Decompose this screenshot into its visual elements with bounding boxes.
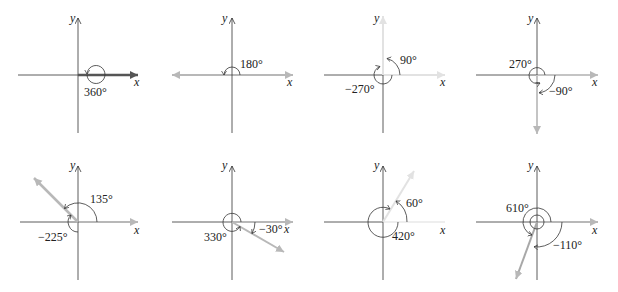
angle-label-135: 135° (90, 192, 113, 206)
angle-label-neg225: −225° (38, 230, 68, 244)
angle-label-90: 90° (400, 53, 417, 67)
y-axis-label: y (69, 11, 76, 25)
panel-90: y x 90° −270° (324, 11, 446, 133)
angle-label: 360° (84, 85, 107, 99)
y-axis-label: y (221, 158, 228, 172)
panel-180: y x 180° (172, 11, 293, 133)
angle-label-neg90: −90° (549, 84, 573, 98)
angle-label-neg30: −30° (259, 222, 283, 236)
x-axis-label: x (286, 75, 293, 89)
x-axis-label: x (439, 223, 446, 237)
angle-label-610: 610° (506, 201, 529, 215)
x-axis-label: x (591, 75, 598, 89)
panel-360: y x 360° (18, 11, 140, 133)
y-axis-label: y (527, 11, 534, 25)
panel-neg90: y x 270° −90° (476, 11, 598, 134)
y-axis-label: y (373, 11, 380, 25)
panel-neg110: y x 610° −110° (476, 158, 598, 280)
angle-label-270: 270° (509, 57, 532, 71)
terminal-side (516, 222, 537, 279)
angle-arc-90 (387, 59, 400, 76)
panel-neg30: y x 330° −30° (172, 158, 293, 280)
x-axis-label: x (591, 223, 598, 237)
y-axis-label: y (69, 158, 76, 172)
x-axis-label: x (133, 75, 140, 89)
angle-label-420: 420° (392, 229, 415, 243)
angle-label: 180° (240, 57, 263, 71)
angle-arc-neg30 (252, 222, 255, 234)
y-axis-label: y (527, 158, 534, 172)
y-axis-label: y (373, 158, 380, 172)
y-axis-label: y (221, 11, 228, 25)
panel-60: y x 60° 420° (324, 158, 446, 280)
terminal-side (34, 178, 78, 222)
panel-135: y x 135° −225° (20, 158, 140, 280)
angle-label-330: 330° (204, 230, 227, 244)
angle-label-neg270: −270° (345, 82, 375, 96)
angles-figure: y x 360° y x 180° y x 90° −270° y x 270° (0, 0, 618, 292)
x-axis-label: x (439, 75, 446, 89)
x-axis-label: x (283, 222, 290, 236)
angle-label-60: 60° (406, 196, 423, 210)
x-axis-label: x (133, 223, 140, 237)
angle-label-neg110: −110° (553, 238, 582, 252)
